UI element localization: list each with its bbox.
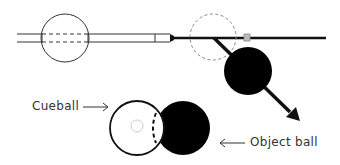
cueball-label: Cueball [32,99,79,113]
bridge-circle [41,14,89,62]
object-ball-pointer-arrow [220,139,245,147]
contact-marker [244,34,250,41]
object-ball-top [224,47,272,95]
cue-ball-bottom [110,101,164,155]
contact-illustration [110,101,210,155]
object-ball-label: Object ball [250,135,318,149]
cueball-pointer-arrow [83,103,108,111]
